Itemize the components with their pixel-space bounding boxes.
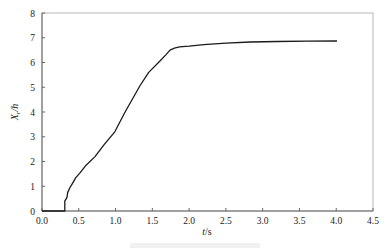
- x-tick-label: 4.0: [330, 216, 342, 226]
- y-tick-label: 5: [30, 83, 35, 93]
- x-tick-label: 1.5: [146, 216, 158, 226]
- x-tick-label: 2.5: [220, 216, 232, 226]
- x-tick-label: 3.0: [257, 216, 269, 226]
- x-tick-label: 2.0: [183, 216, 195, 226]
- x-tick-label: 0.0: [36, 216, 48, 226]
- x-tick-label: 0.5: [73, 216, 85, 226]
- y-axis-title: Xr/h: [9, 104, 22, 122]
- x-axis-title: t/s: [202, 226, 212, 237]
- y-tick-label: 4: [30, 108, 35, 118]
- y-tick-label: 0: [30, 207, 35, 217]
- data-line: [42, 41, 337, 211]
- y-tick-label: 3: [30, 132, 35, 142]
- line-chart: 0.00.51.01.52.02.53.03.54.04.5 012345678…: [0, 0, 389, 252]
- y-tick-label: 7: [30, 33, 35, 43]
- y-tick-label: 1: [30, 182, 35, 192]
- figure-caption: [130, 243, 260, 248]
- y-ticks: 012345678: [30, 9, 45, 217]
- y-tick-label: 2: [30, 157, 35, 167]
- x-tick-label: 4.5: [367, 216, 379, 226]
- plot-frame: [42, 13, 373, 211]
- x-tick-label: 3.5: [294, 216, 306, 226]
- x-tick-label: 1.0: [110, 216, 122, 226]
- y-tick-label: 8: [30, 9, 35, 19]
- y-tick-label: 6: [30, 58, 35, 68]
